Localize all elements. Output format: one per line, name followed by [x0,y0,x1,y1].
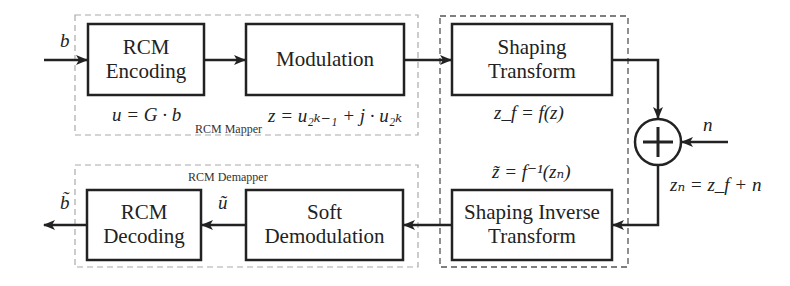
shaping-to-adder-arrow [612,60,658,118]
soft-demodulation-label: Soft Demodulation [246,200,403,248]
soft-line2: Demodulation [246,224,403,248]
soft-output-label: ũ [218,192,228,214]
shaping-inverse-label: Shaping Inverse Transform [452,200,612,248]
modulation-equation: z = u₂ₖ₋₁ + j · u₂ₖ [268,104,402,127]
soft-line1: Soft [246,200,403,224]
encoding-equation: u = G · b [112,104,181,126]
rcm-encoding-label: RCM Encoding [88,35,204,83]
modulation-label: Modulation [246,47,404,71]
rcm-demapper-title: RCM Demapper [188,170,268,185]
shaping-line2: Transform [452,59,612,83]
adder-to-inverse-arrow [613,165,658,225]
input-signal-label: b [60,30,70,52]
decoded-output-label: b̃ [60,192,70,214]
decoding-line1: RCM [87,200,201,224]
rcm-decoding-label: RCM Decoding [87,200,201,248]
inverse-line1: Shaping Inverse [452,200,612,224]
adder-equation: zₙ = z_f + n [670,173,761,196]
shaping-line1: Shaping [452,35,612,59]
inverse-line2: Transform [452,224,612,248]
rcm-mapper-title: RCM Mapper [195,122,262,137]
shaping-equation: z_f = f(z) [494,102,564,124]
inverse-equation: z̃ = f⁻¹(zₙ) [492,160,570,183]
noise-label: n [703,114,713,136]
rcm-encoding-line2: Encoding [88,59,204,83]
decoding-line2: Decoding [87,224,201,248]
shaping-transform-label: Shaping Transform [452,35,612,83]
rcm-encoding-line1: RCM [88,35,204,59]
